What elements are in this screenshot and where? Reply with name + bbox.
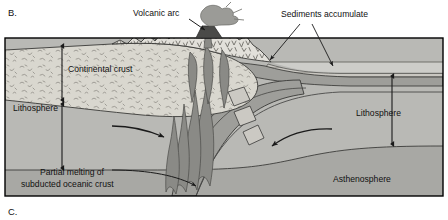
label-continental-crust: Continental crust xyxy=(68,64,133,74)
cross-section-diagram: B. C. Volcanic arc Sediments accumulate … xyxy=(0,0,448,220)
label-sediments-accumulate: Sediments accumulate xyxy=(281,9,368,19)
panel-label-c: C. xyxy=(8,206,17,217)
label-volcanic-arc: Volcanic arc xyxy=(133,8,180,18)
panel-label-b: B. xyxy=(8,7,17,18)
label-partial-melting-line2: subducted oceanic crust xyxy=(21,179,114,189)
figure-panel-b: B. C. Volcanic arc Sediments accumulate … xyxy=(0,0,448,220)
label-partial-melting-line1: Partial melting of xyxy=(40,167,105,177)
label-lithosphere-right: Lithosphere xyxy=(356,108,401,118)
label-lithosphere-left: Lithosphere xyxy=(13,103,58,113)
label-asthenosphere: Asthenosphere xyxy=(333,174,391,184)
